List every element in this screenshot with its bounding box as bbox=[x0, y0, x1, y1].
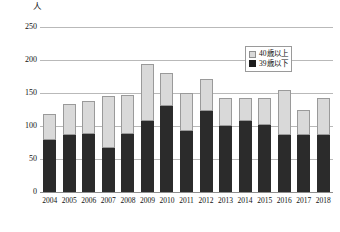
legend-swatch-icon-lower bbox=[249, 60, 256, 67]
bar-segment-lower[interactable] bbox=[219, 126, 232, 192]
bar-segment-upper[interactable] bbox=[278, 90, 291, 135]
bar-segment-upper[interactable] bbox=[63, 104, 76, 134]
bar-segment-lower[interactable] bbox=[63, 135, 76, 192]
bar-segment-upper[interactable] bbox=[239, 98, 252, 121]
bar-segment-upper[interactable] bbox=[82, 101, 95, 134]
bar-segment-upper[interactable] bbox=[102, 96, 115, 148]
bar-segment-lower[interactable] bbox=[258, 125, 271, 192]
bar-segment-lower[interactable] bbox=[121, 134, 134, 192]
bar-segment-lower[interactable] bbox=[82, 134, 95, 192]
bar-segment-upper[interactable] bbox=[297, 110, 310, 135]
bar-segment-lower[interactable] bbox=[278, 135, 291, 192]
bar-segment-upper[interactable] bbox=[258, 98, 271, 126]
bar-segment-upper[interactable] bbox=[317, 98, 330, 135]
y-axis-tick-label: 150 bbox=[7, 89, 37, 97]
legend-label-upper: 40歳以上 bbox=[259, 50, 288, 58]
bar-segment-upper[interactable] bbox=[180, 93, 193, 131]
y-axis-tick-label: 250 bbox=[7, 23, 37, 31]
chart-legend: 40歳以上 39歳以下 bbox=[245, 46, 292, 72]
bar-segment-upper[interactable] bbox=[219, 98, 232, 126]
bar-segment-lower[interactable] bbox=[297, 135, 310, 192]
y-axis-unit-label: 人 bbox=[33, 1, 42, 11]
legend-item-lower: 39歳以下 bbox=[249, 59, 288, 68]
bar-segment-lower[interactable] bbox=[141, 121, 154, 192]
bar-segment-lower[interactable] bbox=[317, 135, 330, 192]
legend-item-upper: 40歳以上 bbox=[249, 50, 288, 59]
bar-segment-upper[interactable] bbox=[141, 64, 154, 121]
bar-segment-lower[interactable] bbox=[239, 121, 252, 192]
bar-segment-lower[interactable] bbox=[160, 106, 173, 192]
bar-segment-upper[interactable] bbox=[160, 73, 173, 105]
bar-segment-lower[interactable] bbox=[200, 111, 213, 192]
chart-container: 人 050100150200250 2004200520062007200820… bbox=[0, 0, 340, 232]
gridline bbox=[40, 192, 333, 193]
legend-swatch-icon-upper bbox=[249, 51, 256, 58]
bar-segment-upper[interactable] bbox=[200, 79, 213, 111]
legend-label-lower: 39歳以下 bbox=[259, 60, 288, 68]
bar-segment-upper[interactable] bbox=[43, 114, 56, 140]
y-axis-tick-label: 100 bbox=[7, 122, 37, 130]
bar-segment-lower[interactable] bbox=[102, 148, 115, 192]
bar-segment-upper[interactable] bbox=[121, 95, 134, 134]
bar-segment-lower[interactable] bbox=[43, 140, 56, 192]
y-axis-tick-label: 50 bbox=[7, 155, 37, 163]
x-axis-tick-label: 2018 bbox=[310, 196, 336, 205]
bar-segment-lower[interactable] bbox=[180, 131, 193, 192]
y-axis-tick-label: 0 bbox=[7, 188, 37, 196]
y-axis-tick-label: 200 bbox=[7, 56, 37, 64]
